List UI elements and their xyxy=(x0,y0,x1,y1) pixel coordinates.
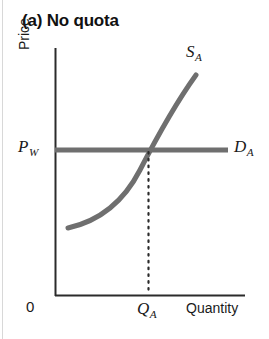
x-axis-label: Quantity xyxy=(186,300,238,316)
world-price-label: PW xyxy=(18,137,38,158)
plot-area xyxy=(0,0,269,339)
world-price-label-letter: P xyxy=(18,137,28,156)
supply-curve-label-letter: S xyxy=(186,42,195,61)
demand-curve-label: DA xyxy=(234,137,254,158)
equilibrium-quantity-label-letter: Q xyxy=(137,299,149,318)
supply-curve-label: SA xyxy=(186,42,202,63)
demand-curve-label-letter: D xyxy=(234,137,246,156)
economics-figure-no-quota: (a) No quota Price Quantity 0 SA DA PW Q… xyxy=(0,0,269,339)
supply-curve-label-subscript: A xyxy=(195,51,202,63)
world-price-label-subscript: W xyxy=(28,146,38,158)
y-axis-label: Price xyxy=(16,18,32,50)
demand-curve-label-subscript: A xyxy=(246,146,253,158)
equilibrium-quantity-label: QA xyxy=(137,299,157,320)
equilibrium-quantity-label-subscript: A xyxy=(149,308,156,320)
origin-label: 0 xyxy=(26,298,34,315)
